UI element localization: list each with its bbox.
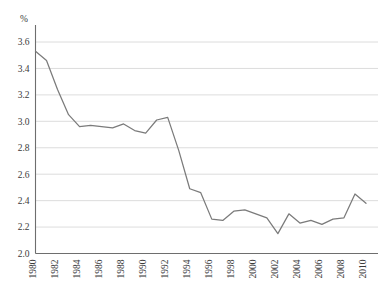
y-axis-tick-label: 2.8 [18,143,30,153]
y-axis-tick-label: 2.6 [18,170,30,180]
x-axis-tick-label: 2000 [248,259,258,278]
chart-page: 2.02.22.42.62.83.03.23.43.6 198019821984… [0,0,392,300]
x-axis-tick-label: 1990 [138,259,148,278]
x-axis-tick-label: 1982 [50,259,60,278]
x-axis-tick-label: 1998 [226,259,236,278]
x-axis-tick-label: 1992 [160,259,170,278]
y-axis-tick-label: 2.2 [18,222,30,232]
y-axis-tick-label: 2.0 [18,249,30,259]
x-axis-tick-label: 2004 [292,259,302,278]
y-axis-tick-labels: 2.02.22.42.62.83.03.23.43.6 [18,37,30,259]
x-axis-tick-label: 1980 [28,259,38,278]
x-axis-tick-label: 1996 [204,259,214,278]
y-axis-tick-label: 3.4 [18,64,30,74]
x-axis-tick-label: 1984 [72,259,82,278]
y-axis-tick-label: 3.0 [18,117,30,127]
x-axis-tick-label: 2010 [358,259,368,278]
x-axis-tick-label: 2008 [336,259,346,278]
line-chart-figure: 2.02.22.42.62.83.03.23.43.6 198019821984… [0,0,392,300]
x-axis-tick-label: 1986 [94,259,104,278]
x-axis-tick-label: 1988 [116,259,126,278]
data-series-line [36,51,367,233]
x-axis-tick-label: 1994 [182,259,192,278]
y-axis-tick-label: 3.6 [18,37,30,47]
y-axis-tick-label: 2.4 [18,196,30,206]
x-axis-tick-labels: 1980198219841986198819901992199419961998… [28,259,369,278]
x-axis-tick-label: 2006 [314,259,324,278]
x-axis-tick-label: 2002 [270,259,280,278]
y-axis-unit-label: % [20,14,28,24]
chart-canvas: 2.02.22.42.62.83.03.23.43.6 198019821984… [0,0,392,300]
y-axis-tick-label: 3.2 [18,90,30,100]
